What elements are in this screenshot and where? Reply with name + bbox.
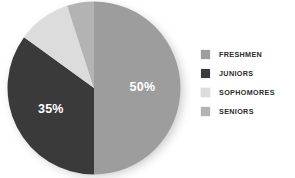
legend-item-label: FRESHMEN: [219, 51, 262, 58]
legend-swatch-icon: [201, 69, 210, 78]
legend-item-juniors[interactable]: JUNIORS: [201, 64, 295, 83]
chart-legend: FRESHMENJUNIORSSOPHOMORESSENIORS: [201, 45, 295, 121]
pie-chart-svg: 50%35%: [6, 1, 182, 177]
legend-swatch-icon: [201, 88, 210, 97]
pie-slice-label-juniors: 35%: [38, 102, 64, 116]
legend-item-freshmen[interactable]: FRESHMEN: [201, 45, 295, 64]
pie-chart-area: 50%35%: [6, 1, 182, 177]
legend-item-label: SENIORS: [219, 108, 254, 115]
pie-slice-label-freshmen: 50%: [130, 80, 156, 94]
legend-item-label: JUNIORS: [219, 70, 253, 77]
legend-item-label: SOPHOMORES: [219, 89, 275, 96]
pie-chart-figure: 50%35% FRESHMENJUNIORSSOPHOMORESSENIORS: [0, 0, 295, 178]
legend-swatch-icon: [201, 50, 210, 59]
legend-item-sophomores[interactable]: SOPHOMORES: [201, 83, 295, 102]
legend-swatch-icon: [201, 107, 210, 116]
legend-item-seniors[interactable]: SENIORS: [201, 102, 295, 121]
